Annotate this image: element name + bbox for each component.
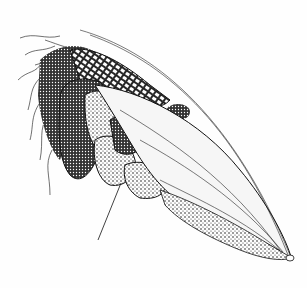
leader-line (98, 183, 121, 240)
illustration-canvas (0, 0, 307, 288)
corn-smut-illustration (0, 0, 307, 288)
stem-end (286, 255, 294, 261)
